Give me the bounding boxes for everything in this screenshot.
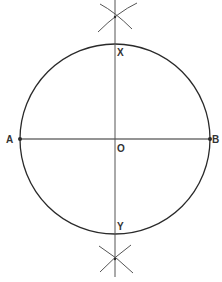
label-b: B: [212, 134, 219, 145]
label-o: O: [117, 143, 125, 154]
point-a-dot: [18, 137, 22, 141]
diagram-svg: A B O X Y: [0, 0, 222, 282]
label-a: A: [6, 134, 13, 145]
label-x: X: [117, 47, 124, 58]
lower-intersection-dot: [114, 258, 116, 260]
upper-intersection-dot: [114, 16, 116, 18]
label-y: Y: [117, 221, 124, 232]
geometry-diagram: A B O X Y: [0, 0, 222, 282]
upper-construction-arcs: [98, 3, 137, 32]
